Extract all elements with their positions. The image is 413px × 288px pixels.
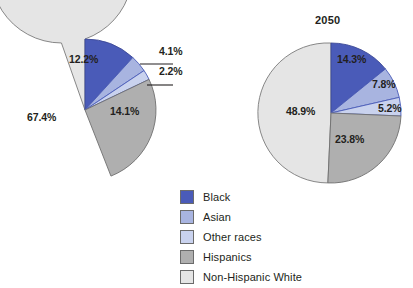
legend-item-hispanics: Hispanics [180,247,302,267]
pie-label-other-races-2004: 2.2% [159,65,183,77]
legend-label-asian: Asian [203,211,231,223]
pie-label-asian-2004: 4.1% [159,45,183,57]
pie-label-asian-2050: 7.8% [372,78,396,90]
legend-item-non-hispanic-white: Non-Hispanic White [180,267,302,287]
pie-svg-2050 [260,42,406,188]
pie-year-label-2050: 2050 [315,14,340,26]
pie-label-black-2050: 14.3% [337,53,366,65]
pie-label-non-hispanic-white-2050: 48.9% [286,105,315,117]
pie-label-non-hispanic-white-2004: 67.4% [27,111,56,123]
legend-swatch-black [180,190,194,204]
legend-label-hispanics: Hispanics [203,251,252,263]
chart-legend: Black Asian Other races Hispanics Non-Hi… [180,187,302,287]
pie-chart-figure: 2004 12.2% 14.1% 67.4% 4.1% 2.2% 20 [0,0,413,288]
pie-label-other-races-2050: 5.2% [378,102,402,114]
legend-label-black: Black [203,191,230,203]
pie-label-hispanics-2050: 23.8% [335,133,364,145]
legend-swatch-asian [180,210,194,224]
pie-chart-2050 [260,42,406,188]
legend-swatch-non-hispanic-white [180,270,194,284]
legend-label-other-races: Other races [203,231,262,243]
legend-swatch-hispanics [180,250,194,264]
pie-label-black-2004: 12.2% [69,53,98,65]
legend-label-non-hispanic-white: Non-Hispanic White [203,271,302,283]
pie-slice-hispanics-2050 [328,113,401,183]
pie-label-hispanics-2004: 14.1% [110,105,139,117]
legend-item-asian: Asian [180,207,302,227]
legend-swatch-other-races [180,230,194,244]
legend-item-black: Black [180,187,302,207]
legend-item-other-races: Other races [180,227,302,247]
